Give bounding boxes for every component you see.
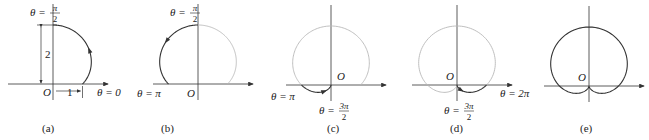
- traced-curve: [53, 25, 91, 84]
- panel-d: Oθ = 2πθ = 3π2(d): [412, 5, 530, 135]
- panel-a: Oθ = 021θ = π2(a): [8, 3, 121, 135]
- origin-label: O: [43, 86, 51, 98]
- panel-e: O(e): [544, 6, 644, 135]
- panel-caption: (c): [327, 122, 340, 135]
- dimension-label-2: 2: [45, 48, 51, 60]
- theta-equals: θ =: [319, 104, 335, 116]
- theta-equals: θ =: [444, 104, 460, 116]
- fraction-denominator: 2: [467, 112, 472, 122]
- theta-label-left: θ = π: [137, 87, 161, 99]
- direction-arrow-icon: [321, 88, 328, 94]
- theta-equals: θ =: [30, 6, 46, 18]
- origin-label: O: [578, 71, 586, 83]
- theta-equals: θ =: [170, 6, 186, 18]
- direction-arrow-icon: [86, 47, 92, 54]
- traced-curve: [302, 85, 332, 92]
- fraction-denominator: 2: [342, 112, 347, 122]
- cardioid-stages-figure: Oθ = 021θ = π2(a)Oθ = πθ = π2(b)Oθ = πθ …: [0, 0, 649, 140]
- panel-b: Oθ = πθ = π2(b): [137, 3, 253, 135]
- panel-caption: (b): [161, 122, 174, 135]
- panel-c: Oθ = πθ = 3π2(c): [271, 5, 386, 135]
- theta-label-left: θ = π: [271, 90, 295, 102]
- traced-curve: [160, 25, 198, 84]
- fraction-denominator: 2: [193, 14, 198, 24]
- theta-fraction-label-top: θ = π2: [170, 3, 200, 24]
- panel-caption: (a): [42, 122, 55, 135]
- panel-caption: (e): [580, 122, 593, 135]
- theta-label-right: θ = 2π: [500, 87, 530, 99]
- fraction-numerator: 3π: [338, 101, 349, 111]
- theta-fraction-label-bottom: θ = 3π2: [444, 101, 474, 122]
- origin-label: O: [187, 87, 195, 99]
- fraction-denominator: 2: [53, 14, 58, 24]
- dimension-label-1: 1: [67, 86, 73, 98]
- panel-caption: (d): [450, 122, 463, 135]
- ghost-curve: [198, 25, 236, 84]
- theta-fraction-label-bottom: θ = 3π2: [319, 101, 349, 122]
- fraction-numerator: 3π: [463, 101, 474, 111]
- fraction-numerator: π: [53, 3, 58, 13]
- theta-fraction-label-top: θ = π2: [30, 3, 60, 24]
- origin-label: O: [446, 70, 454, 82]
- theta-label-right: θ = 0: [97, 86, 121, 98]
- fraction-numerator: π: [193, 3, 198, 13]
- origin-label: O: [337, 70, 345, 82]
